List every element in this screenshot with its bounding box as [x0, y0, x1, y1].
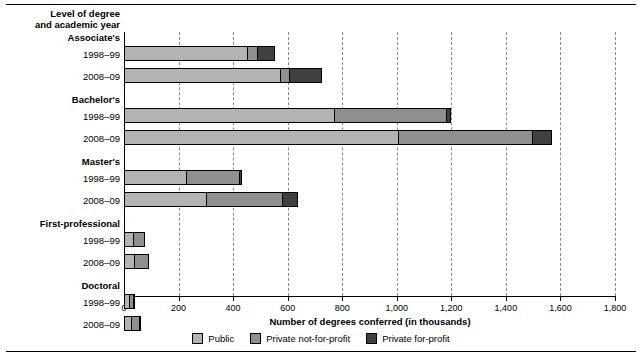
axis-tick: [506, 296, 507, 301]
bar-segment-public: [125, 47, 247, 60]
gridline: [342, 32, 344, 296]
year-label: 2008–09: [2, 133, 120, 144]
bar-segment-private-not-for-profit: [247, 47, 256, 60]
year-label: 2008–09: [2, 319, 120, 330]
bar-segment-private-not-for-profit: [133, 233, 144, 246]
bar-segment-public: [125, 255, 134, 268]
gridline: [451, 32, 453, 296]
bar-segment-public: [125, 131, 398, 144]
year-label: 1998–99: [2, 173, 120, 184]
bar-segment-public: [125, 171, 186, 184]
bar-stack: [124, 130, 552, 145]
value-axis-baseline: [124, 296, 616, 297]
axis-tick-label: 1,200: [421, 303, 481, 313]
bar-segment-private-not-for-profit: [334, 109, 447, 122]
bar-segment-private-for-profit: [446, 109, 449, 122]
bar-segment-private-for-profit: [532, 131, 550, 144]
gridline: [615, 32, 617, 296]
axis-tick: [342, 296, 343, 301]
axis-tick-label: 400: [203, 303, 263, 313]
axis-tick-label: 1,000: [367, 303, 427, 313]
year-label: 1998–99: [2, 111, 120, 122]
group-label-doctoral: Doctoral: [2, 280, 120, 291]
bar-segment-private-not-for-profit: [398, 131, 532, 144]
bar-stack: [124, 294, 135, 309]
axis-tick-label: 1,600: [530, 303, 590, 313]
bar-segment-private-not-for-profit: [186, 171, 239, 184]
bar-stack: [124, 316, 141, 331]
bar-segment-private-for-profit: [133, 295, 134, 308]
bar-stack: [124, 68, 322, 83]
bar-stack: [124, 170, 242, 185]
group-label-first-professional: First-professional: [2, 218, 120, 229]
bar-segment-public: [125, 193, 206, 206]
value-axis-title: Number of degrees conferred (in thousand…: [124, 316, 616, 327]
legend-swatch-icon: [250, 333, 261, 344]
bar-segment-private-for-profit: [282, 193, 297, 206]
gridline: [560, 32, 562, 296]
legend-swatch-icon: [366, 333, 377, 344]
axis-tick: [615, 296, 616, 301]
axis-tick-label: 800: [312, 303, 372, 313]
axis-tick: [179, 296, 180, 301]
bar-segment-public: [125, 233, 133, 246]
year-label: 1998–99: [2, 49, 120, 60]
gridline: [397, 32, 399, 296]
axis-tick: [451, 296, 452, 301]
bar-stack: [124, 46, 275, 61]
axis-tick: [560, 296, 561, 301]
bar-segment-private-not-for-profit: [206, 193, 282, 206]
axis-tick-label: 1,400: [476, 303, 536, 313]
group-label-bachelor-s: Bachelor's: [2, 94, 120, 105]
bar-segment-public: [125, 109, 334, 122]
legend-label: Public: [208, 333, 234, 344]
legend-label: Private for-profit: [382, 333, 450, 344]
axis-tick: [233, 296, 234, 301]
chart-legend: PublicPrivate not-for-profitPrivate for-…: [0, 333, 642, 344]
year-label: 1998–99: [2, 235, 120, 246]
bar-segment-private-for-profit: [139, 317, 141, 330]
bar-stack: [124, 108, 451, 123]
axis-tick: [397, 296, 398, 301]
axis-tick-label: 1,800: [585, 303, 642, 313]
bar-stack: [124, 254, 149, 269]
group-label-master-s: Master's: [2, 156, 120, 167]
legend-swatch-icon: [192, 333, 203, 344]
year-label: 2008–09: [2, 195, 120, 206]
gridline: [506, 32, 508, 296]
legend-item: Private not-for-profit: [250, 333, 350, 344]
group-label-associate-s: Associate's: [2, 32, 120, 43]
year-label: 2008–09: [2, 257, 120, 268]
bar-segment-private-not-for-profit: [131, 317, 139, 330]
legend-item: Private for-profit: [366, 333, 450, 344]
legend-item: Public: [192, 333, 234, 344]
bar-segment-private-for-profit: [239, 171, 241, 184]
bar-stack: [124, 192, 298, 207]
bar-segment-public: [125, 69, 280, 82]
year-label: 2008–09: [2, 71, 120, 82]
axis-tick-label: 200: [149, 303, 209, 313]
legend-label: Private not-for-profit: [266, 333, 350, 344]
bar-segment-private-not-for-profit: [280, 69, 289, 82]
axis-tick: [288, 296, 289, 301]
bar-segment-private-not-for-profit: [134, 255, 148, 268]
bar-stack: [124, 232, 145, 247]
axis-tick-label: 600: [258, 303, 318, 313]
bar-segment-private-for-profit: [289, 69, 321, 82]
chart-figure: Level of degree and academic year Associ…: [0, 0, 642, 357]
bar-segment-private-for-profit: [257, 47, 274, 60]
